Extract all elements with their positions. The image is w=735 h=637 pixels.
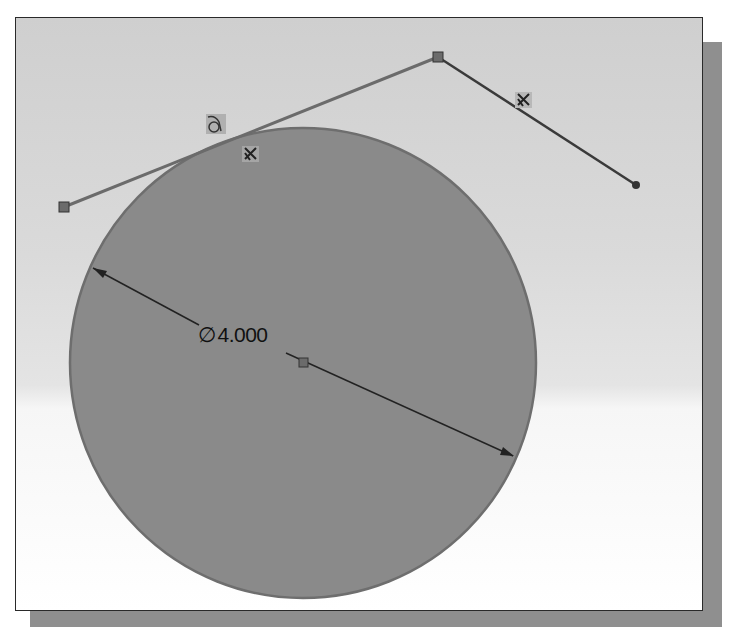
sketch-line-2[interactable] (438, 57, 636, 185)
diameter-value: 4.000 (218, 323, 268, 346)
endpoint-handle-right[interactable] (632, 181, 640, 189)
tangent-constraint-icon[interactable] (206, 114, 226, 134)
circle-center-point[interactable] (299, 358, 308, 367)
sketch-viewport[interactable]: ∅4.000 (15, 17, 703, 611)
diameter-dimension[interactable]: ∅4.000 (198, 323, 268, 346)
endpoint-handle-apex[interactable] (433, 52, 443, 62)
diameter-symbol: ∅ (198, 323, 216, 346)
fixed-constraint-icon[interactable] (515, 92, 532, 108)
fixed-constraint-icon[interactable] (242, 146, 259, 162)
endpoint-handle-left[interactable] (59, 202, 69, 212)
sketch-canvas[interactable]: ∅4.000 (16, 18, 703, 611)
